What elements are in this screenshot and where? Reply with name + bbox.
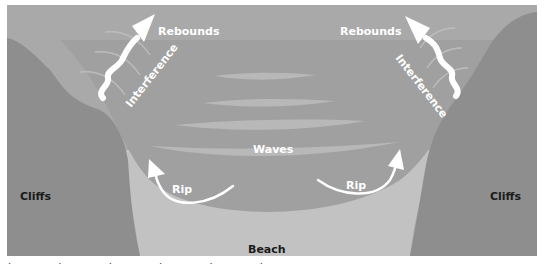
label-beach: Beach xyxy=(248,243,286,256)
label-rip-left: Rip xyxy=(172,183,192,196)
label-rebounds-right: Rebounds xyxy=(340,25,402,38)
label-cliffs-right: Cliffs xyxy=(490,190,522,203)
label-rebounds-left: Rebounds xyxy=(158,25,220,38)
label-waves: Waves xyxy=(253,143,294,156)
cove-diagram: Rebounds Rebounds Interference Interfere… xyxy=(0,0,544,264)
label-rip-right: Rip xyxy=(346,179,366,192)
label-cliffs-left: Cliffs xyxy=(20,190,52,203)
caption-cutoff: · · · · · · xyxy=(8,258,285,264)
